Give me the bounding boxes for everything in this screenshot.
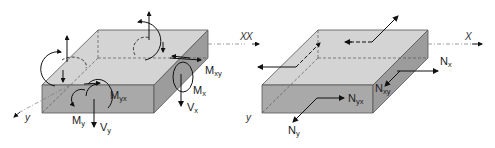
label-My: My	[72, 114, 85, 128]
plate-diagram: X y Mxy Mx Vx	[0, 0, 495, 148]
label-Mx: Mx	[193, 84, 206, 98]
x-axis-label-left: X	[245, 31, 253, 42]
label-Vy: Vy	[100, 121, 111, 135]
label-Vx: Vx	[187, 101, 198, 115]
y-axis-label: y	[24, 112, 31, 123]
label-Mxy: Mxy	[205, 64, 222, 78]
x-axis-left: X	[208, 31, 247, 44]
x-axis-label-right: X	[464, 31, 472, 42]
right-panel-membrane: X X y Nx	[245, 16, 482, 138]
y-axis-label-right: y	[245, 112, 252, 123]
label-Ny: Ny	[288, 124, 300, 138]
left-panel-moments: X y Mxy Mx Vx	[14, 12, 247, 135]
label-Nx: Nx	[440, 55, 452, 69]
x-axis-right: X	[428, 31, 482, 44]
